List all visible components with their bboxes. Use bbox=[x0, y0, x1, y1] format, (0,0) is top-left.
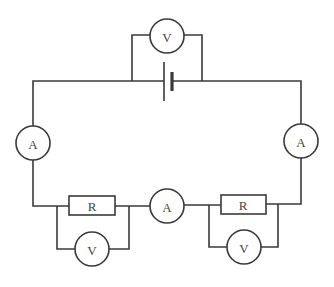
voltmeter-left-label: V bbox=[87, 243, 97, 258]
voltmeter-right: V bbox=[227, 230, 261, 264]
battery-cell bbox=[164, 62, 172, 101]
circuit-diagram: V A A A R R V V bbox=[0, 0, 334, 287]
ammeter-right-label: A bbox=[296, 135, 306, 150]
voltmeter-left: V bbox=[75, 232, 109, 266]
ammeter-middle-label: A bbox=[162, 200, 172, 215]
resistor-right: R bbox=[221, 195, 266, 214]
resistor-left: R bbox=[69, 196, 115, 215]
resistor-right-label: R bbox=[239, 198, 248, 213]
voltmeter-battery-label: V bbox=[162, 30, 172, 45]
ammeter-left-label: A bbox=[28, 137, 38, 152]
ammeter-middle: A bbox=[150, 189, 184, 223]
resistor-left-label: R bbox=[88, 199, 97, 214]
ammeter-right: A bbox=[284, 124, 318, 158]
voltmeter-right-label: V bbox=[239, 241, 249, 256]
voltmeter-battery: V bbox=[150, 19, 184, 53]
ammeter-left: A bbox=[16, 126, 50, 160]
